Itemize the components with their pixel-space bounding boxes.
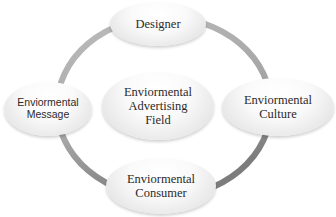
center-label-line1: Enviormental bbox=[124, 85, 192, 99]
node-consumer: Enviormental Consumer bbox=[106, 158, 216, 214]
node-consumer-label-line2: Consumer bbox=[127, 186, 195, 200]
center-label-line2: Advertising bbox=[124, 99, 192, 113]
node-culture-label-line2: Culture bbox=[244, 107, 312, 121]
node-center-advertising-field: Enviormental Advertising Field bbox=[102, 72, 214, 140]
node-culture: Enviormental Culture bbox=[222, 78, 334, 136]
node-culture-label-line1: Enviormental bbox=[244, 93, 312, 107]
node-designer: Designer bbox=[110, 2, 206, 46]
node-message-label-line2: Message bbox=[17, 109, 78, 121]
node-consumer-label-line1: Enviormental bbox=[127, 172, 195, 186]
node-message: Enviormental Message bbox=[4, 82, 92, 136]
center-label-line3: Field bbox=[124, 113, 192, 127]
node-designer-label: Designer bbox=[135, 17, 180, 31]
